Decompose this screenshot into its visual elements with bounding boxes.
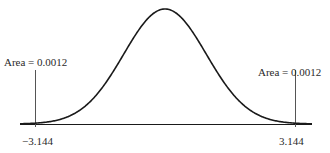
right-tick-label: 3.144 xyxy=(279,135,304,147)
right-area-annotation: Area = 0.0012 xyxy=(258,66,321,78)
left-tick-label: −3.144 xyxy=(22,135,53,147)
left-area-annotation: Area = 0.0012 xyxy=(4,56,67,68)
